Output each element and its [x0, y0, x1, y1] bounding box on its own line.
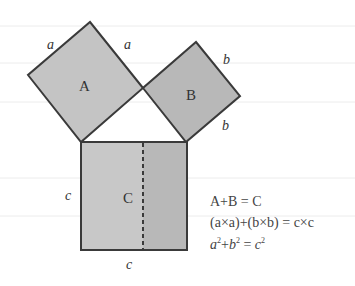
eq-a: a: [210, 237, 217, 252]
equation-squares: a2+b2 = c2: [210, 236, 265, 253]
eq-equals: =: [240, 237, 255, 252]
square-c-right: [143, 142, 187, 250]
square-c-left: [81, 142, 143, 250]
label-a-square: A: [79, 78, 90, 94]
eq-plus: +: [221, 237, 229, 252]
equation-products: (a×a)+(b×b) = c×c: [210, 215, 314, 231]
side-label-b-bottom: b: [222, 118, 229, 133]
side-label-a-right: a: [124, 37, 131, 52]
side-label-a-left: a: [47, 37, 54, 52]
pythagoras-diagram: A B C a a b b c c: [0, 0, 355, 286]
side-label-c-bottom: c: [126, 257, 133, 272]
label-b-square: B: [186, 87, 196, 103]
eq-b: b: [229, 237, 236, 252]
label-c-square: C: [123, 190, 133, 206]
side-label-c-left: c: [65, 188, 72, 203]
equation-area-sum: A+B = C: [210, 194, 262, 210]
side-label-b-top: b: [223, 52, 230, 67]
eq-c-exp: 2: [261, 236, 265, 245]
